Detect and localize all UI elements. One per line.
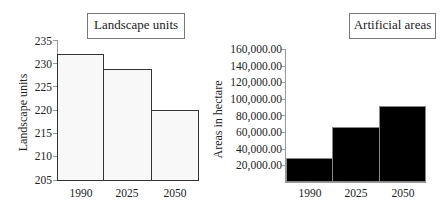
y-tick: 220: [22, 104, 52, 116]
bar-1990: [286, 158, 333, 182]
y-tick: 205: [22, 174, 52, 186]
y-tick: 225: [22, 81, 52, 93]
x-tick: 1990: [58, 187, 104, 199]
bar-2025: [103, 69, 152, 181]
y-tick: 160,000.00: [222, 43, 282, 55]
y-tick: 100,000.00: [222, 93, 282, 105]
y-tick: 120,000.00: [222, 76, 282, 88]
bar-1990: [57, 54, 104, 181]
y-tick: 140,000.00: [222, 60, 282, 72]
x-tick: 2050: [380, 187, 426, 199]
chart-title-artificial-areas: Artificial areas: [349, 13, 436, 39]
x-axis-line: [285, 182, 426, 183]
y-tick: 80,000.00: [222, 110, 282, 122]
y-tick: 230: [22, 58, 52, 70]
bar-2050: [151, 110, 199, 181]
x-tick: 2025: [104, 187, 150, 199]
x-tick: 1990: [287, 187, 333, 199]
x-tick: 2025: [333, 187, 379, 199]
x-tick: 2050: [152, 187, 198, 199]
y-tick: 60,000.00: [222, 126, 282, 138]
y-tick: 215: [22, 127, 52, 139]
y-tick: 235: [22, 35, 52, 47]
bar-2025: [332, 127, 380, 182]
y-tick: 210: [22, 150, 52, 162]
chart-title-landscape-units: Landscape units: [87, 13, 185, 39]
y-tick: 20,000.00: [222, 159, 282, 171]
y-tick: 40,000.00: [222, 143, 282, 155]
bar-2050: [379, 106, 426, 182]
